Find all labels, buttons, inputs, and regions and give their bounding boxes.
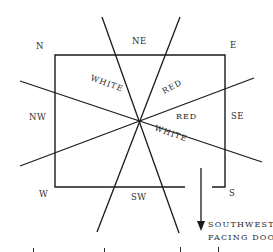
door-arrow-head bbox=[197, 221, 205, 231]
door-caption-line2: FACING DOOR bbox=[208, 233, 273, 242]
label-ne: NE bbox=[132, 36, 147, 46]
label-e: E bbox=[230, 40, 237, 50]
zone-red-right: RED bbox=[176, 112, 197, 121]
bagua-diagram: N NE E NW SE W SW S WHITE RED RED WHITE … bbox=[0, 0, 273, 252]
label-sw: SW bbox=[131, 192, 147, 202]
label-nw: NW bbox=[29, 112, 46, 122]
direction-labels: N NE E NW SE W SW S bbox=[29, 36, 244, 202]
clipped-text-fragments bbox=[33, 247, 219, 252]
label-s: S bbox=[229, 188, 235, 198]
label-w: W bbox=[39, 189, 48, 199]
zone-red-upper: RED bbox=[161, 78, 184, 96]
door-caption: SOUTHWEST- FACING DOOR bbox=[208, 220, 273, 242]
door-arrow bbox=[197, 168, 205, 231]
label-n: N bbox=[36, 41, 44, 51]
zone-white-upper: WHITE bbox=[89, 73, 125, 93]
zone-white-lower: WHITE bbox=[153, 123, 189, 143]
door-caption-line1: SOUTHWEST- bbox=[208, 220, 273, 229]
label-se: SE bbox=[231, 111, 244, 121]
